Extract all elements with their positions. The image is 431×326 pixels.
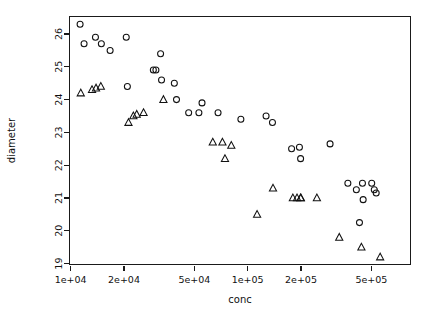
data-point-circle bbox=[327, 141, 333, 147]
data-point-triangle bbox=[336, 233, 343, 240]
data-point-circle bbox=[199, 100, 205, 106]
x-tick-label: 2e+04 bbox=[108, 274, 140, 285]
data-point-circle bbox=[171, 80, 177, 86]
data-point-triangle bbox=[313, 194, 320, 201]
data-point-circle bbox=[263, 113, 269, 119]
data-points bbox=[77, 21, 384, 260]
chart-canvas: 1e+042e+045e+041e+052e+055e+05 192021222… bbox=[0, 0, 431, 326]
data-point-circle bbox=[98, 41, 104, 47]
x-tick-label: 5e+04 bbox=[178, 274, 210, 285]
data-point-triangle bbox=[130, 112, 137, 119]
data-point-triangle bbox=[97, 83, 104, 90]
plot-frame bbox=[70, 17, 411, 265]
data-point-triangle bbox=[77, 89, 84, 96]
data-point-circle bbox=[345, 180, 351, 186]
data-point-circle bbox=[158, 51, 164, 57]
data-point-circle bbox=[296, 144, 302, 150]
y-axis-title: diameter bbox=[6, 117, 17, 163]
y-tick-label: 26 bbox=[53, 28, 64, 40]
data-point-circle bbox=[173, 97, 179, 103]
data-point-circle bbox=[369, 180, 375, 186]
data-point-triangle bbox=[377, 253, 384, 260]
data-point-circle bbox=[238, 116, 244, 122]
data-point-circle bbox=[356, 220, 362, 226]
data-point-triangle bbox=[254, 211, 261, 218]
data-point-triangle bbox=[219, 138, 226, 145]
data-point-circle bbox=[159, 77, 165, 83]
data-point-circle bbox=[123, 34, 129, 40]
data-point-triangle bbox=[140, 109, 147, 116]
x-tick-label: 1e+04 bbox=[55, 274, 87, 285]
data-point-circle bbox=[186, 110, 192, 116]
data-point-triangle bbox=[358, 243, 365, 250]
data-point-circle bbox=[81, 41, 87, 47]
scatter-plot-figure: 1e+042e+045e+041e+052e+055e+05 192021222… bbox=[0, 0, 431, 326]
data-point-triangle bbox=[125, 119, 132, 126]
data-point-circle bbox=[353, 187, 359, 193]
data-point-circle bbox=[196, 110, 202, 116]
y-tick-label: 21 bbox=[53, 192, 64, 204]
y-tick-label: 22 bbox=[53, 159, 64, 171]
data-point-circle bbox=[107, 47, 113, 53]
data-point-circle bbox=[124, 83, 130, 89]
data-point-circle bbox=[92, 34, 98, 40]
y-tick-label: 24 bbox=[53, 94, 64, 106]
data-point-circle bbox=[298, 156, 304, 162]
data-point-triangle bbox=[209, 138, 216, 145]
data-point-triangle bbox=[160, 96, 167, 103]
data-point-triangle bbox=[228, 142, 235, 149]
x-tick-label: 2e+05 bbox=[285, 274, 317, 285]
y-tick-label: 23 bbox=[53, 126, 64, 138]
x-axis-ticks: 1e+042e+045e+041e+052e+055e+05 bbox=[55, 266, 388, 285]
data-point-triangle bbox=[269, 184, 276, 191]
y-tick-label: 20 bbox=[53, 225, 64, 237]
y-tick-label: 25 bbox=[53, 61, 64, 73]
data-point-circle bbox=[360, 197, 366, 203]
x-tick-label: 5e+05 bbox=[355, 274, 387, 285]
y-tick-label: 19 bbox=[53, 258, 64, 270]
y-axis-ticks: 1920212223242526 bbox=[53, 28, 69, 270]
x-axis-title: conc bbox=[228, 294, 251, 305]
data-point-circle bbox=[289, 146, 295, 152]
x-tick-label: 1e+05 bbox=[232, 274, 264, 285]
data-point-circle bbox=[359, 180, 365, 186]
data-point-circle bbox=[77, 21, 83, 27]
data-point-circle bbox=[269, 120, 275, 126]
data-point-triangle bbox=[221, 155, 228, 162]
data-point-circle bbox=[215, 110, 221, 116]
